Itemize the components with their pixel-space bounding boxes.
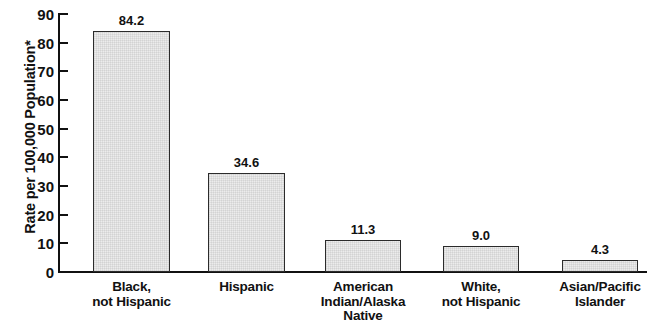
y-tick-60: [60, 99, 68, 101]
category-label-line: Native: [285, 309, 441, 321]
bar-value-label: 84.2: [73, 14, 190, 27]
y-tick-50: [60, 128, 68, 130]
y-tick-40: [60, 156, 68, 158]
y-tick-label-10: 10: [37, 236, 54, 251]
y-tick-90: [60, 13, 68, 15]
bar-chart: Rate per 100,000 Population* 01020304050…: [0, 0, 655, 321]
bar-value-label: 11.3: [305, 223, 421, 236]
bar: [93, 31, 170, 272]
bar-value-label: 4.3: [542, 243, 655, 256]
y-axis-line: [58, 13, 60, 273]
category-label-line: not Hispanic: [53, 295, 210, 310]
bar: [208, 173, 285, 272]
bar-value-label: 9.0: [423, 229, 539, 242]
y-tick-label-0: 0: [46, 265, 54, 280]
y-tick-label-30: 30: [37, 179, 54, 194]
y-tick-10: [60, 242, 68, 244]
category-label-line: Asian/Pacific: [522, 280, 655, 295]
y-tick-20: [60, 214, 68, 216]
category-label-line: Islander: [522, 295, 655, 310]
y-tick-label-80: 80: [37, 36, 54, 51]
y-tick-30: [60, 185, 68, 187]
y-tick-0: [60, 271, 68, 273]
bar: [325, 240, 401, 272]
bar: [443, 246, 519, 272]
y-tick-70: [60, 70, 68, 72]
y-tick-label-40: 40: [37, 150, 54, 165]
y-tick-label-90: 90: [37, 7, 54, 22]
y-tick-label-20: 20: [37, 208, 54, 223]
bar: [562, 260, 638, 272]
bar-value-label: 34.6: [188, 156, 305, 169]
y-tick-80: [60, 42, 68, 44]
y-tick-label-50: 50: [37, 122, 54, 137]
y-axis-title: Rate per 100,000 Population*: [22, 3, 38, 271]
y-tick-label-70: 70: [37, 64, 54, 79]
category-label: Asian/PacificIslander: [522, 280, 655, 309]
y-tick-label-60: 60: [37, 93, 54, 108]
